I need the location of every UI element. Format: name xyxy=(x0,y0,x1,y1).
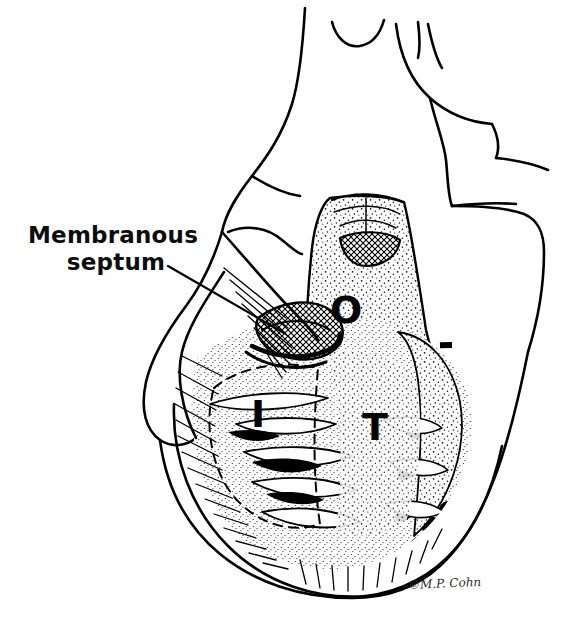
membranous-septum-label-line1: Membranous xyxy=(28,222,198,248)
membranous-septum-label-line2: septum xyxy=(28,249,198,276)
zone-marker-trabecular: T xyxy=(362,408,388,446)
leader-line xyxy=(168,266,284,333)
zone-marker-outlet: O xyxy=(330,291,362,329)
zone-marker-inlet: I xyxy=(251,395,265,433)
heart-illustration xyxy=(0,0,573,624)
illustration-canvas: Membranous septum O I T ©M.P. Cohn xyxy=(0,0,573,624)
membranous-septum-label: Membranous septum xyxy=(28,222,198,276)
